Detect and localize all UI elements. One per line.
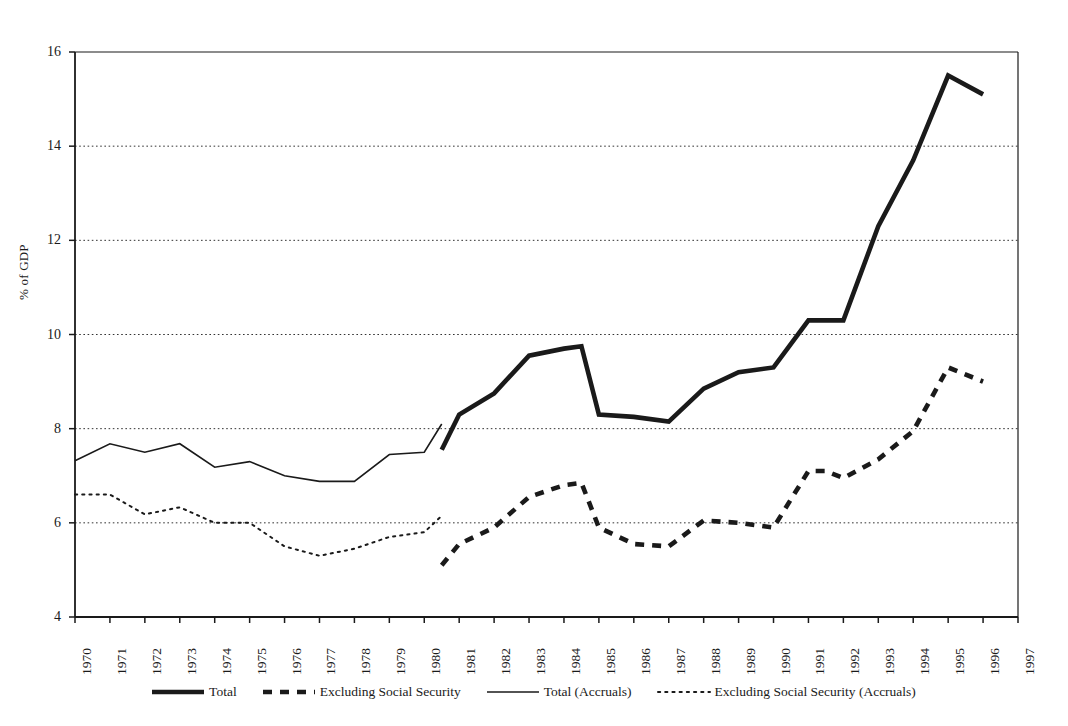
- x-tick-label: 1989: [744, 648, 758, 675]
- legend-swatch-icon: [487, 686, 539, 698]
- legend-swatch-icon: [152, 686, 204, 698]
- series-line-3: [75, 495, 442, 556]
- series-lines: [75, 76, 983, 566]
- y-tick-label: 14: [31, 139, 61, 153]
- y-tick-label: 8: [31, 422, 61, 436]
- x-tick-label: 1972: [150, 648, 164, 675]
- legend-item-0[interactable]: Total: [152, 685, 237, 699]
- x-tick-label: 1990: [779, 648, 793, 675]
- y-tick-label: 12: [31, 233, 61, 247]
- y-tick-label: 4: [31, 610, 61, 624]
- x-tick-label: 1975: [255, 648, 269, 675]
- legend-swatch-icon: [263, 686, 315, 698]
- legend-item-2[interactable]: Total (Accruals): [487, 685, 632, 699]
- x-tick-label: 1995: [953, 648, 967, 675]
- legend-swatch-icon: [658, 686, 710, 698]
- chart-container: % of GDP 16141210864 1970197119721973197…: [0, 0, 1068, 726]
- x-tick-label: 1985: [604, 648, 618, 675]
- x-tick-label: 1994: [918, 648, 932, 675]
- x-tick-label: 1997: [1023, 648, 1037, 675]
- legend-label: Excluding Social Security (Accruals): [715, 685, 916, 699]
- legend-label: Excluding Social Security: [320, 685, 461, 699]
- x-tick-label: 1971: [115, 648, 129, 675]
- x-tick-label: 1977: [324, 648, 338, 675]
- x-tick-label: 1982: [499, 648, 513, 675]
- x-tick-label: 1976: [290, 648, 304, 675]
- chart-legend: TotalExcluding Social SecurityTotal (Acc…: [0, 679, 1068, 705]
- plot-area: [0, 0, 1068, 726]
- legend-item-3[interactable]: Excluding Social Security (Accruals): [658, 685, 916, 699]
- axis-lines: [69, 52, 1018, 623]
- y-tick-label: 16: [31, 45, 61, 59]
- series-line-1: [442, 367, 983, 565]
- x-tick-label: 1980: [429, 648, 443, 675]
- x-tick-label: 1996: [988, 648, 1002, 675]
- legend-label: Total: [209, 685, 237, 699]
- x-tick-label: 1973: [185, 648, 199, 675]
- x-tick-label: 1988: [709, 648, 723, 675]
- y-tick-label: 6: [31, 516, 61, 530]
- x-tick-label: 1991: [813, 648, 827, 675]
- y-axis-title: % of GDP: [16, 244, 32, 300]
- legend-label: Total (Accruals): [544, 685, 632, 699]
- x-tick-label: 1978: [359, 648, 373, 675]
- x-tick-label: 1986: [639, 648, 653, 675]
- x-tick-label: 1974: [220, 648, 234, 675]
- x-tick-label: 1970: [80, 648, 94, 675]
- x-tick-label: 1979: [394, 648, 408, 675]
- x-tick-label: 1981: [464, 648, 478, 675]
- legend-item-1[interactable]: Excluding Social Security: [263, 685, 461, 699]
- x-tick-label: 1993: [883, 648, 897, 675]
- x-tick-label: 1984: [569, 648, 583, 675]
- x-tick-label: 1987: [674, 648, 688, 675]
- x-tick-label: 1983: [534, 648, 548, 675]
- x-tick-label: 1992: [848, 648, 862, 675]
- series-line-2: [75, 424, 442, 481]
- y-tick-label: 10: [31, 328, 61, 342]
- series-line-0: [442, 76, 983, 450]
